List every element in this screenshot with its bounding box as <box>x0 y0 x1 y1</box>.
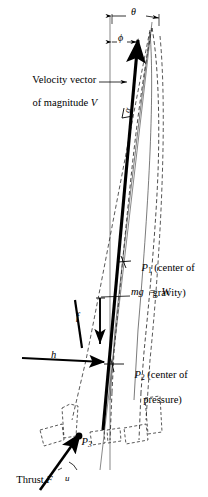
velocity-label-line2: of magnitude <box>33 97 91 108</box>
velocity-label-line1: Velocity vector <box>32 74 96 85</box>
angle-theta-label: θ <box>131 6 136 17</box>
p1-text: (center of <box>152 262 195 273</box>
p2-center-of-pressure-label: P2 (center of pressure) <box>124 357 188 429</box>
aero-force-f-label: f <box>76 310 79 322</box>
h-force-label: h <box>51 349 56 361</box>
p2-text-line2: pressure) <box>124 394 188 406</box>
velocity-symbol: V <box>91 97 97 108</box>
thrust-angle-u-arc <box>69 462 77 470</box>
aero-force-f-line <box>75 300 82 348</box>
p2-text: (center of <box>145 369 188 380</box>
weight-label: mg = W <box>131 286 170 298</box>
thrust-label-leader <box>58 468 62 470</box>
thrust-label: Thrust F <box>6 462 53 497</box>
rocket-dynamics-figure: θ ϕ α Velocity vector of magnitude V P1 … <box>0 0 208 497</box>
p3-thrust-point-label: P3 <box>71 424 92 461</box>
velocity-vector-label: Velocity vector of magnitude V <box>22 62 97 121</box>
thrust-text: Thrust <box>16 474 46 485</box>
rocket-body-inner-outline <box>110 32 152 400</box>
p3-subscript: 3 <box>88 440 92 449</box>
angle-phi-label: ϕ <box>118 32 123 43</box>
thrust-angle-u-label: u <box>65 473 70 483</box>
weight-vector-arrow <box>96 298 105 344</box>
thrust-symbol: F <box>46 474 52 485</box>
h-force-arrow <box>22 358 104 362</box>
weight-label-leader <box>101 296 130 297</box>
